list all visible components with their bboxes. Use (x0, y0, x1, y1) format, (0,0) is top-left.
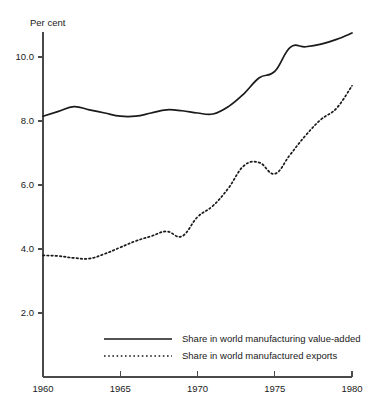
y-tick-label: 2.0 (21, 307, 34, 318)
y-axis-title: Per cent (30, 17, 66, 28)
chart-container: Per cent 2.04.06.08.010.0 19601965197019… (0, 0, 382, 418)
x-tick-label: 1965 (110, 383, 131, 394)
x-tick-label: 1980 (341, 383, 362, 394)
x-tick-label: 1960 (32, 383, 53, 394)
x-tick-label: 1970 (187, 383, 208, 394)
legend-label: Share in world manufacturing value-added (182, 333, 361, 344)
y-tick-label: 8.0 (21, 115, 34, 126)
series-line-manufactured-exports (43, 86, 352, 259)
y-axis-ticks: 2.04.06.08.010.0 (16, 51, 44, 318)
y-tick-label: 6.0 (21, 179, 34, 190)
legend-label: Share in world manufactured exports (182, 350, 337, 361)
y-tick-label: 10.0 (16, 51, 35, 62)
series-line-manufacturing-value-added (43, 33, 352, 117)
y-tick-label: 4.0 (21, 243, 34, 254)
x-tick-label: 1975 (264, 383, 285, 394)
x-axis-ticks: 19601965197019751980 (32, 371, 362, 394)
chart-legend: Share in world manufacturing value-added… (104, 333, 361, 361)
line-chart: Per cent 2.04.06.08.010.0 19601965197019… (0, 0, 382, 418)
